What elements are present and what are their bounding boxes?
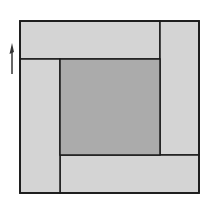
bottom-rectangle	[60, 155, 199, 193]
center-square	[60, 59, 160, 155]
left-rectangle	[20, 59, 60, 193]
right-rectangle	[160, 21, 199, 155]
pinwheel-square-diagram	[0, 0, 216, 207]
up-arrow-icon	[10, 43, 15, 74]
top-rectangle	[20, 21, 160, 59]
